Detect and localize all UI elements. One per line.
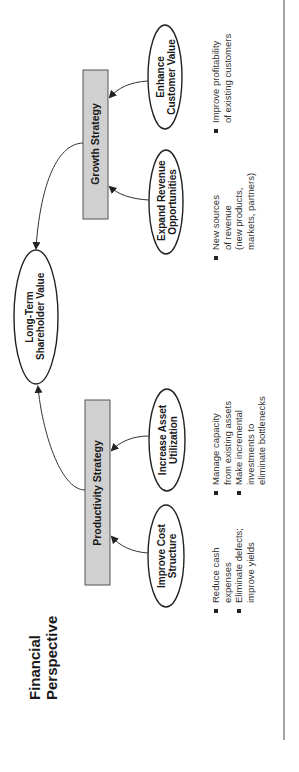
bullet-line: Improve profitability <box>210 34 222 123</box>
arrow-growth-to-center <box>36 143 83 248</box>
bullet-square-icon <box>214 256 218 260</box>
improve-cost-label: Improve Cost Structure <box>156 517 178 595</box>
arrow-cost-to-productivity <box>112 537 148 553</box>
bullet-item: Manage capacityfrom existing assets <box>210 396 233 495</box>
bullet-item: New sourcesof revenue(new products,marke… <box>210 173 256 260</box>
arrow-asset-to-productivity <box>112 436 149 450</box>
expand-bullets: New sourcesof revenue(new products,marke… <box>210 173 256 260</box>
title-line: Financial <box>26 616 43 700</box>
arrow-enhance-to-growth <box>110 81 148 97</box>
label-line: Expand Revenue <box>156 163 167 241</box>
bullet-line: eliminate bottlenecks <box>256 396 268 485</box>
enhance-bullets: Improve profitabilityof existing custome… <box>210 34 233 133</box>
bullet-line: markets, partners) <box>245 173 257 250</box>
label-line: Enhance <box>155 38 166 116</box>
bullet-line: of existing customers <box>222 34 234 123</box>
increase-asset-bullets: Manage capacityfrom existing assets Make… <box>210 396 268 495</box>
bullet-square-icon <box>214 609 218 613</box>
bullet-line: New sources <box>210 173 222 250</box>
bullet-line: from existing assets <box>222 401 234 485</box>
bullet-line: Manage capacity <box>210 401 222 485</box>
bullet-line: (new products, <box>233 173 245 250</box>
bullet-square-icon <box>237 609 241 613</box>
title-line: Perspective <box>43 616 60 700</box>
bullet-line: Make incremental <box>233 396 245 485</box>
center-label: Long-Term Shareholder Value <box>24 274 46 360</box>
bullet-item: Improve profitabilityof existing custome… <box>210 34 233 133</box>
label-line: Increase Asset <box>157 401 168 479</box>
bullet-line: Reduce cash <box>210 548 222 603</box>
arrow-expand-to-growth <box>110 187 149 200</box>
bullet-line: Eliminate defects; <box>233 528 245 603</box>
growth-strategy-label: Growth Strategy <box>89 89 101 199</box>
label-line: Opportunities <box>167 163 178 241</box>
center-label-line: Shareholder Value <box>35 274 46 360</box>
bullet-item: Reduce cashexpenses <box>210 528 233 613</box>
center-label-line: Long-Term <box>24 274 35 360</box>
diagram-title: Financial Perspective <box>26 616 60 700</box>
bullet-square-icon <box>214 129 218 133</box>
bullet-line: investments to <box>245 396 257 485</box>
label-line: Customer Value <box>166 38 177 116</box>
improve-cost-bullets: Reduce cashexpenses Eliminate defects;im… <box>210 528 256 613</box>
enhance-label: Enhance Customer Value <box>155 38 177 116</box>
bullet-line: of revenue <box>222 173 234 250</box>
bullet-square-icon <box>214 491 218 495</box>
arrow-productivity-to-center <box>38 387 85 490</box>
expand-label: Expand Revenue Opportunities <box>156 163 178 241</box>
label-line: Improve Cost <box>156 517 167 595</box>
increase-asset-label: Increase Asset Utilization <box>157 401 179 479</box>
bullet-item: Eliminate defects;improve yields <box>233 528 256 613</box>
productivity-strategy-label: Productivity Strategy <box>91 438 103 548</box>
label-line: Structure <box>167 517 178 595</box>
bullet-line: improve yields <box>245 528 257 603</box>
bullet-item: Make incrementalinvestments toeliminate … <box>233 396 268 495</box>
bullet-square-icon <box>237 491 241 495</box>
label-line: Utilization <box>168 401 179 479</box>
bullet-line: expenses <box>222 548 234 603</box>
